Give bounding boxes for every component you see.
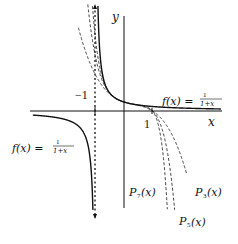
f-label-right: f(x) = 1 1+x xyxy=(161,91,222,108)
f-label-left-den: 1+x xyxy=(53,147,67,155)
f-label-left-num: 1 xyxy=(56,138,60,146)
f-label-left-text: f(x) = xyxy=(11,142,44,155)
tick-label-1: 1 xyxy=(144,117,150,131)
p5-label: P 5 (x) xyxy=(178,215,206,229)
p3-label-p: P xyxy=(194,186,203,199)
p3-label-arg: (x) xyxy=(207,186,222,199)
plot-canvas: y x −1 1 f(x) = 1 1+x f(x) = 1 1+x P 7 (… xyxy=(0,0,238,244)
f-label-right-den: 1+x xyxy=(200,100,214,108)
f-label-right-num: 1 xyxy=(203,91,207,99)
f-label-left: f(x) = 1 1+x xyxy=(11,138,74,155)
asymptote-arrow-top xyxy=(93,4,97,9)
f-curve-left xyxy=(33,115,93,210)
p5-label-p: P xyxy=(178,215,187,228)
p3-label: P 3 (x) xyxy=(194,186,222,200)
y-axis-label: y xyxy=(111,10,119,24)
x-axis-label: x xyxy=(208,115,215,129)
p7-curve xyxy=(93,6,168,209)
p7-label-p: P xyxy=(128,186,137,199)
f-label-right-text: f(x) = xyxy=(161,95,194,108)
tick-label-neg1: −1 xyxy=(75,88,88,102)
p5-label-arg: (x) xyxy=(191,216,206,229)
asymptote-arrow-bottom xyxy=(93,214,97,219)
p7-label: P 7 (x) xyxy=(128,186,156,200)
p7-label-arg: (x) xyxy=(141,186,156,199)
